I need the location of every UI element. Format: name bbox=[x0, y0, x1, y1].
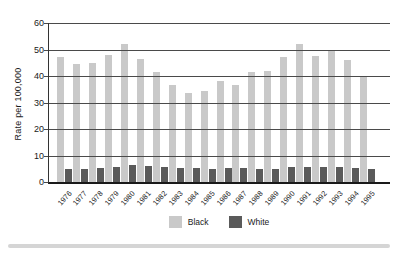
bar-black-1994 bbox=[344, 60, 351, 182]
legend: Black White bbox=[48, 215, 390, 229]
bar-white-1989 bbox=[272, 169, 279, 183]
y-tick-label-0: 0 bbox=[16, 177, 44, 187]
legend-label-white: White bbox=[248, 217, 270, 227]
bar-white-1985 bbox=[209, 169, 216, 183]
bar-white-1983 bbox=[177, 168, 184, 182]
bar-black-1986 bbox=[217, 81, 224, 182]
y-tick-mark-60 bbox=[44, 23, 48, 24]
bar-black-1978 bbox=[89, 63, 96, 182]
bar-white-1982 bbox=[161, 167, 168, 182]
bar-white-1987 bbox=[240, 168, 247, 182]
bar-white-1977 bbox=[81, 169, 88, 182]
y-tick-mark-50 bbox=[44, 50, 48, 51]
bar-white-1994 bbox=[352, 168, 359, 182]
bar-white-1990 bbox=[288, 167, 295, 182]
y-tick-mark-10 bbox=[44, 156, 48, 157]
bar-black-1980 bbox=[121, 44, 128, 182]
y-tick-mark-0 bbox=[44, 182, 48, 183]
gridline-40 bbox=[49, 76, 390, 77]
bar-white-1988 bbox=[256, 169, 263, 182]
gridline-50 bbox=[49, 50, 390, 51]
y-tick-label-30: 30 bbox=[16, 98, 44, 108]
legend-swatch-white bbox=[229, 216, 242, 228]
bar-white-1992 bbox=[320, 167, 327, 182]
bar-black-1991 bbox=[296, 44, 303, 182]
bar-white-1993 bbox=[336, 167, 343, 182]
y-tick-mark-40 bbox=[44, 76, 48, 77]
gridline-60 bbox=[49, 23, 390, 24]
bar-black-1983 bbox=[169, 85, 176, 182]
y-tick-label-60: 60 bbox=[16, 18, 44, 28]
gridline-20 bbox=[49, 129, 390, 130]
bar-black-1984 bbox=[185, 93, 192, 182]
bar-white-1984 bbox=[193, 168, 200, 182]
bar-black-1989 bbox=[264, 71, 271, 182]
bar-white-1976 bbox=[65, 169, 72, 182]
bar-white-1995 bbox=[368, 169, 375, 182]
bar-white-1980 bbox=[129, 165, 136, 182]
y-tick-label-20: 20 bbox=[16, 124, 44, 134]
bar-black-1987 bbox=[232, 85, 239, 182]
y-tick-label-50: 50 bbox=[16, 45, 44, 55]
bar-black-1988 bbox=[248, 72, 255, 182]
bar-black-1993 bbox=[328, 50, 335, 183]
plot-area bbox=[48, 23, 390, 184]
bottom-divider bbox=[8, 244, 390, 248]
bar-white-1978 bbox=[97, 168, 104, 182]
bar-white-1981 bbox=[145, 166, 152, 182]
y-tick-mark-20 bbox=[44, 129, 48, 130]
legend-label-black: Black bbox=[188, 217, 209, 227]
bar-black-1977 bbox=[73, 64, 80, 182]
y-tick-label-10: 10 bbox=[16, 151, 44, 161]
y-tick-label-40: 40 bbox=[16, 71, 44, 81]
bar-black-1979 bbox=[105, 55, 112, 182]
bar-white-1979 bbox=[113, 167, 120, 182]
bar-white-1991 bbox=[304, 167, 311, 182]
chart-figure: Rate per 100,000 6050403020100 197619771… bbox=[0, 0, 398, 256]
bar-black-1985 bbox=[201, 91, 208, 182]
y-tick-mark-30 bbox=[44, 103, 48, 104]
bar-black-1982 bbox=[153, 72, 160, 182]
bar-black-1992 bbox=[312, 56, 319, 182]
gridline-30 bbox=[49, 103, 390, 104]
bar-white-1986 bbox=[225, 168, 232, 182]
legend-swatch-black bbox=[169, 216, 182, 228]
gridline-10 bbox=[49, 156, 390, 157]
bar-black-1981 bbox=[137, 59, 144, 182]
